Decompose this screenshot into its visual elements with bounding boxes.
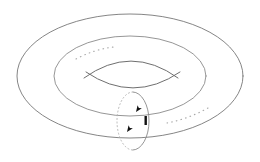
torus-figure (0, 0, 260, 162)
hole-lower-arc (86, 72, 180, 88)
meridian-circle-back-half (117, 92, 133, 150)
longitude-curve-hidden-right (167, 108, 208, 123)
outer-silhouette-ellipse (17, 14, 243, 138)
longitude-curve-hidden-left (76, 47, 114, 59)
meridian-tick-mark (145, 116, 147, 125)
hole-upper-arc (84, 61, 178, 78)
meridian-arrow-lower (125, 125, 133, 133)
inner-ridge-ellipse (54, 36, 206, 116)
torus-diagram-canvas (0, 0, 260, 162)
meridian-arrow-upper (134, 105, 142, 113)
